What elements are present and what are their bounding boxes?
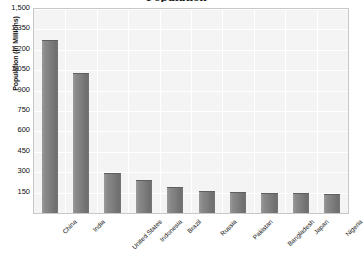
vertical-gridline xyxy=(97,9,98,213)
bar-pakistan xyxy=(230,192,246,213)
bar-japan xyxy=(293,193,309,213)
bar-bangladesh xyxy=(261,193,277,213)
y-tick-label: 1,200 xyxy=(0,45,30,53)
vertical-gridline xyxy=(317,9,318,213)
y-tick-label: 1,500 xyxy=(0,4,30,12)
bar-india xyxy=(73,73,89,213)
y-tick-label: 1,050 xyxy=(0,65,30,73)
bar-brazil xyxy=(167,187,183,213)
chart-title: Population xyxy=(0,0,353,2)
vertical-gridline xyxy=(254,9,255,213)
bar-china xyxy=(42,40,58,213)
x-tick-label-japan: Japan xyxy=(312,218,329,235)
x-tick-label-bangladesh: Bangladesh xyxy=(286,218,315,247)
x-tick-label-brazil: Brazil xyxy=(186,218,202,234)
vertical-gridline xyxy=(160,9,161,213)
x-tick-label-nigeria: Nigeria xyxy=(344,218,364,238)
y-tick-label: 600 xyxy=(0,126,30,134)
x-tick-label-united-states: United States xyxy=(130,218,163,251)
y-tick-label: 750 xyxy=(0,106,30,114)
x-tick-label-china: China xyxy=(61,218,78,235)
vertical-gridline xyxy=(222,9,223,213)
x-tick-label-india: India xyxy=(91,218,106,233)
bar-nigeria xyxy=(324,194,340,213)
y-tick-label: 450 xyxy=(0,147,30,155)
x-tick-label-russia: Russia xyxy=(219,218,238,237)
bar-indonesia xyxy=(136,180,152,213)
vertical-gridline xyxy=(65,9,66,213)
vertical-gridline xyxy=(128,9,129,213)
bar-russia xyxy=(199,191,215,213)
bar-united-states xyxy=(104,173,120,213)
plot-area xyxy=(33,8,349,214)
y-tick-label: 900 xyxy=(0,86,30,94)
y-tick-label: 150 xyxy=(0,188,30,196)
y-tick-label: 1,350 xyxy=(0,24,30,32)
x-tick-label-pakistan: Pakistan xyxy=(251,218,274,241)
x-axis-tick-labels: ChinaIndiaUnited StatesIndonesiaBrazilRu… xyxy=(33,214,349,269)
y-axis-tick-labels: 1503004506007509001,0501,2001,3501,500 xyxy=(0,8,30,214)
vertical-gridline xyxy=(285,9,286,213)
y-tick-label: 300 xyxy=(0,167,30,175)
vertical-gridline xyxy=(191,9,192,213)
